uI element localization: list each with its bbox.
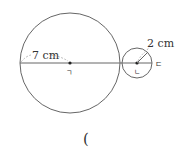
small-radius-line	[137, 52, 148, 63]
large-center-point	[68, 61, 71, 64]
end-point-label: ㄷ	[155, 60, 162, 69]
large-center-label: ㄱ	[66, 69, 72, 77]
geometry-diagram: 7 cm 2 cm ㄱ ㄴ ㄷ (	[0, 0, 189, 156]
small-center-label: ㄴ	[134, 68, 140, 76]
small-radius-label: 2 cm	[147, 37, 175, 50]
answer-bracket: (	[83, 130, 89, 148]
large-radius-label: 7 cm	[32, 49, 60, 62]
